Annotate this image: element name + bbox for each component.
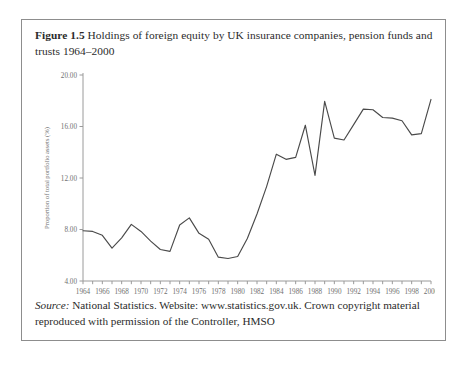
figure-label: Figure 1.5 <box>35 29 85 41</box>
x-tick-label: 1968 <box>114 288 129 296</box>
source-label: Source: <box>35 299 69 311</box>
x-tick-label: 1992 <box>346 288 361 296</box>
x-tick-label: 1980 <box>230 288 245 296</box>
x-tick-label: 1996 <box>385 288 400 296</box>
source-text: National Statistics. Website: www.statis… <box>35 299 420 327</box>
x-tick-label: 1976 <box>192 288 207 296</box>
x-tick-label: 1964 <box>76 288 91 296</box>
figure-title: Holdings of foreign equity by UK insuran… <box>35 29 432 57</box>
figure-container: Figure 1.5 Holdings of foreign equity by… <box>21 19 446 341</box>
x-tick-label: 1990 <box>327 288 342 296</box>
x-tick-label: 1986 <box>288 288 303 296</box>
x-tick-label: 1978 <box>211 288 226 296</box>
data-series-line <box>83 99 431 258</box>
x-tick-label: 1984 <box>269 288 284 296</box>
y-tick-label: 12.00 <box>61 175 78 183</box>
x-tick-label: 1994 <box>366 288 381 296</box>
y-tick-label: 8.00 <box>64 226 77 234</box>
line-chart: 4.008.0012.0016.0020.0019641966196819701… <box>35 63 435 311</box>
y-tick-label: 4.00 <box>64 278 77 286</box>
x-tick-label: 2000 <box>424 288 435 296</box>
x-tick-label: 1966 <box>95 288 110 296</box>
y-tick-label: 20.00 <box>61 72 78 80</box>
source-note: Source: National Statistics. Website: ww… <box>35 298 435 329</box>
x-tick-label: 1970 <box>134 288 149 296</box>
x-tick-label: 1998 <box>404 288 419 296</box>
y-axis-title: Proportion of total portfolio assets (%) <box>43 127 51 229</box>
figure-caption: Figure 1.5 Holdings of foreign equity by… <box>35 28 433 59</box>
y-tick-label: 16.00 <box>61 123 78 131</box>
x-tick-label: 1988 <box>308 288 323 296</box>
x-tick-label: 1982 <box>250 288 265 296</box>
chart-plot-area: 4.008.0012.0016.0020.0019641966196819701… <box>35 63 435 311</box>
x-tick-label: 1974 <box>172 288 187 296</box>
x-tick-label: 1972 <box>153 288 168 296</box>
